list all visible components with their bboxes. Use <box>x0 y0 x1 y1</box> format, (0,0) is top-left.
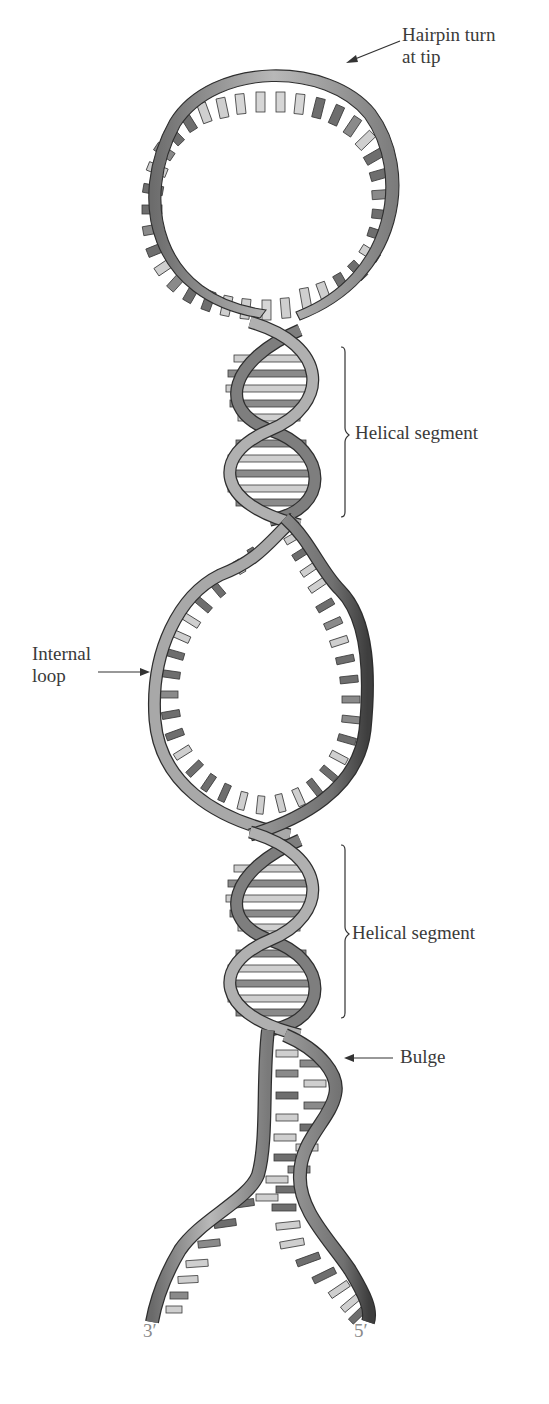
hairpin-loop <box>142 70 399 320</box>
internal-loop-arrowhead <box>140 668 150 676</box>
helical-segment-top <box>226 322 315 525</box>
internal-loop <box>154 518 367 835</box>
bulge-arrowhead <box>344 1054 354 1062</box>
helical-segment-top-label: Helical segment <box>355 422 478 444</box>
helical-segment-bottom-label: Helical segment <box>352 922 475 944</box>
hairpin-backbone <box>149 70 399 320</box>
rna-structure-diagram <box>0 0 549 1404</box>
internal-loop-label: Internal loop <box>32 643 91 687</box>
bulge-label: Bulge <box>400 1046 445 1068</box>
hairpin-label-line1: Hairpin turn <box>402 24 495 46</box>
internal-loop-label-line2: loop <box>32 665 91 687</box>
helical-segment-top-bracket <box>341 347 349 517</box>
helical-segment-bottom <box>226 832 315 1035</box>
hairpin-arrowhead <box>346 55 358 63</box>
five-prime-end-label: 5′ <box>354 1320 368 1342</box>
hairpin-turn-label: Hairpin turn at tip <box>402 24 495 68</box>
bulge-and-tails <box>152 1030 369 1324</box>
helical-segment-bottom-bracket <box>341 845 349 1018</box>
hairpin-arrow <box>350 41 400 61</box>
hairpin-label-line2: at tip <box>402 46 495 68</box>
three-prime-end-label: 3′ <box>143 1320 157 1342</box>
internal-loop-label-line1: Internal <box>32 643 91 665</box>
